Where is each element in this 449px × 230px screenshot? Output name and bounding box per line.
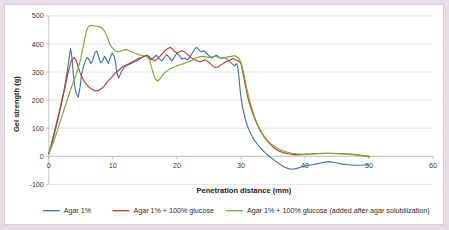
y-tick-label: 100 [32, 125, 44, 133]
chart-card: -1000100200300400500 0102030405060 Gel s… [4, 4, 444, 225]
chart-legend: Agar 1%Agar 1% + 100% glucoseAgar 1% + 1… [43, 207, 430, 215]
x-axis-tick-labels: 0102030405060 [47, 156, 437, 169]
legend-label: Agar 1% [64, 207, 92, 215]
y-tick-label: 200 [32, 97, 44, 105]
legend-label: Agar 1% + 100% glucose (added after agar… [247, 207, 430, 215]
gel-strength-line-chart: -1000100200300400500 0102030405060 Gel s… [5, 5, 443, 224]
x-tick-label: 10 [109, 162, 117, 170]
x-tick-label: 30 [237, 162, 245, 170]
x-tick-label: 60 [429, 162, 437, 170]
legend-label: Agar 1% + 100% glucose [133, 207, 214, 215]
figure-frame: -1000100200300400500 0102030405060 Gel s… [0, 0, 449, 230]
y-tick-label: -100 [29, 181, 43, 189]
series-line [49, 47, 369, 169]
x-tick-label: 0 [47, 162, 51, 170]
y-axis-title: Gel strength (g) [12, 76, 21, 132]
x-axis-title: Penetration distance (mm) [197, 186, 292, 195]
x-tick-label: 20 [173, 162, 181, 170]
y-tick-label: 300 [32, 69, 44, 77]
series-lines [49, 25, 369, 169]
y-tick-label: 400 [32, 41, 44, 49]
y-tick-label: 0 [40, 153, 44, 161]
y-tick-label: 500 [32, 12, 44, 20]
series-line [49, 47, 369, 156]
x-tick-label: 50 [365, 162, 373, 170]
